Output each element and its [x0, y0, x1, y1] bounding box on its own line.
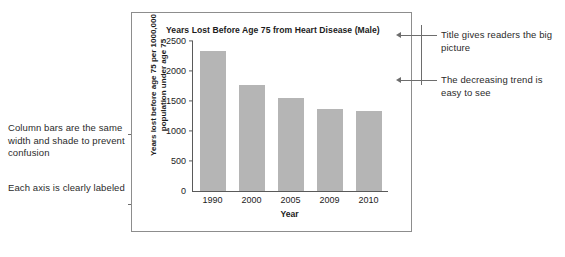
x-axis-title: Year [192, 209, 387, 219]
annotation-axis-labeled: Each axis is clearly labeled [8, 182, 128, 195]
bar-slot [310, 41, 349, 191]
bar-slot [349, 41, 388, 191]
bar-2005 [278, 98, 304, 191]
annotation-title-picture: Title gives readers the big picture [441, 29, 559, 54]
chart-container: Years Lost Before Age 75 from Heart Dise… [131, 12, 412, 232]
bar-slot [271, 41, 310, 191]
bar-2000 [239, 85, 265, 191]
annotation-decreasing-trend: The decreasing trend is easy to see [441, 74, 561, 99]
bar-slot [193, 41, 232, 191]
arrow-head-right-top [396, 32, 401, 38]
bar-slot [232, 41, 271, 191]
y-axis-title: Years lost before age 75 per 1000,000 po… [149, 10, 169, 160]
connector-line-right-bottom [399, 80, 437, 81]
bar-2010 [356, 111, 382, 191]
bar-1990 [200, 51, 226, 191]
x-tick-label: 2000 [232, 195, 271, 205]
arrow-head-right-bottom [396, 77, 401, 83]
y-tick-label: 0 [181, 186, 193, 196]
annotation-column-bars: Column bars are the same width and shade… [8, 122, 128, 160]
x-tick-label: 1990 [193, 195, 232, 205]
y-axis-title-line2: population under age 75 [159, 39, 168, 131]
connector-line-right-top [399, 35, 437, 36]
plot-area: 2500 2000 1500 1000 500 0 [192, 41, 388, 192]
chart-title: Years Lost Before Age 75 from Heart Dise… [166, 25, 416, 35]
x-tick-label: 2009 [310, 195, 349, 205]
x-axis-ticks: 1990 2000 2005 2009 2010 [193, 191, 388, 205]
bar-2009 [317, 109, 343, 192]
connector-vertical-right [421, 25, 422, 85]
x-tick-label: 2005 [271, 195, 310, 205]
y-axis-title-line1: Years lost before age 75 per 1000,000 [149, 14, 158, 156]
x-tick-label: 2010 [349, 195, 388, 205]
bar-series [193, 41, 388, 191]
